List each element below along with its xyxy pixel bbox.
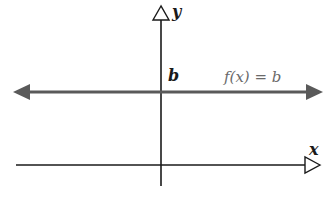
x-axis-label: x (309, 142, 319, 158)
line-left-arrow-icon (13, 84, 30, 100)
function-label: f(x) = b (224, 70, 281, 85)
constant-function-line (13, 84, 323, 100)
x-axis-arrow-icon (305, 157, 320, 173)
y-axis-label: y (172, 4, 181, 20)
y-intercept-label: b (168, 68, 179, 84)
y-axis-arrow-icon (153, 6, 169, 20)
y-axis (153, 6, 169, 186)
graph-canvas (0, 0, 336, 199)
line-right-arrow-icon (306, 84, 323, 100)
x-axis (16, 157, 320, 173)
